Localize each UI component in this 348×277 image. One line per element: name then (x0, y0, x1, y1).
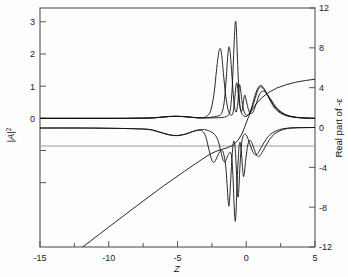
y2-axis-title: Real part of -ε (333, 98, 344, 158)
x-tick-label: 0 (244, 253, 249, 263)
plot-frame (40, 8, 315, 247)
y-tick-label: 1 (30, 82, 35, 92)
y2-axis-title-group: Real part of -ε (333, 98, 344, 158)
curve-epsilon-real-2 (40, 128, 315, 222)
y2-tick-label: -4 (319, 163, 327, 173)
x-tick-label: -5 (173, 253, 181, 263)
x-tick-label: -15 (33, 253, 46, 263)
y2-tick-label: 8 (319, 43, 324, 53)
curve-intensity-1 (40, 48, 315, 118)
axis-tick-labels: -15-10-5050123-12-8-404812 (30, 3, 332, 263)
x-tick-label: 5 (312, 253, 317, 263)
y-axis-title-group: |A|2 (5, 127, 17, 142)
curve-epsilon-linear-ramp (83, 79, 315, 247)
y2-tick-label: -12 (319, 242, 332, 252)
y-tick-label: 2 (30, 49, 35, 59)
x-tick-label: -10 (102, 253, 115, 263)
axes-frame (40, 8, 315, 247)
y-axis-title: |A|2 (5, 127, 17, 142)
y2-tick-label: 0 (319, 123, 324, 133)
data-curves (40, 21, 315, 247)
y-axis-title-base: |A| (5, 131, 16, 142)
y-tick-label: 0 (30, 114, 35, 124)
y-tick-label: 3 (30, 17, 35, 27)
y2-tick-label: 4 (319, 83, 324, 93)
plot-canvas: -15-10-5050123-12-8-404812 Z |A|2 Real p… (0, 0, 348, 277)
axis-ticks (40, 8, 315, 247)
y2-tick-label: -8 (319, 203, 327, 213)
figure-container: -15-10-5050123-12-8-404812 Z |A|2 Real p… (0, 0, 348, 277)
curve-epsilon-real-1 (40, 128, 315, 207)
x-axis-title: Z (173, 263, 181, 274)
y2-tick-label: 12 (319, 3, 329, 13)
y-axis-title-exponent: 2 (5, 127, 12, 131)
curve-intensity-3 (40, 21, 315, 118)
